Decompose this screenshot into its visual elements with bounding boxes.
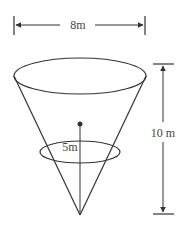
cone-diagram: 8m 5m 10 m <box>0 0 185 227</box>
cone-top-rim <box>14 58 146 94</box>
height-label: 10 m <box>151 126 176 140</box>
water-depth-label: 5m <box>62 140 78 154</box>
water-surface: 5m <box>40 122 120 216</box>
top-diameter-label: 8m <box>70 18 86 32</box>
height-dimension: 10 m <box>151 64 176 214</box>
top-diameter-dimension: 8m <box>14 16 145 35</box>
